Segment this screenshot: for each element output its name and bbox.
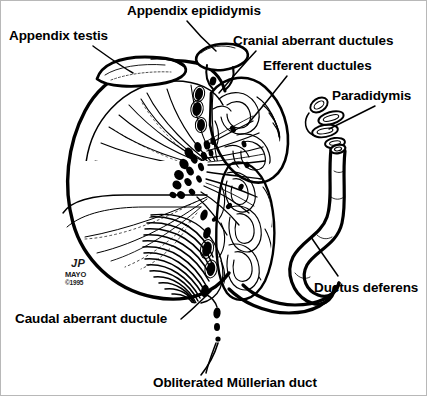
label-appendix-testis: Appendix testis <box>9 29 108 43</box>
efferent-ductules <box>197 116 265 235</box>
anatomical-figure: Appendix testis Appendix epididymis Cran… <box>0 0 427 396</box>
mullerian-duct-remnant <box>201 295 221 375</box>
label-paradidymis: Paradidymis <box>332 89 411 103</box>
artist-credit: JP MAYO ©1995 <box>65 257 86 285</box>
rete-testis <box>168 137 216 201</box>
copyright-year: ©1995 <box>65 279 86 286</box>
label-appendix-epididymis: Appendix epididymis <box>127 4 261 18</box>
artist-initials: JP <box>71 257 92 269</box>
leader-paradidymis <box>329 106 375 129</box>
appendix-testis-body <box>97 57 186 86</box>
label-efferent-ductules: Efferent ductules <box>263 59 372 73</box>
label-obliterated-mullerian-duct: Obliterated Müllerian duct <box>153 376 317 390</box>
institution-mark: MAYO <box>65 270 86 279</box>
seminiferous-lobules-upper <box>77 81 225 189</box>
leader-appendix-epididymis <box>187 21 216 51</box>
epididymis-head <box>210 78 288 183</box>
label-caudal-aberrant-ductule: Caudal aberrant ductule <box>15 312 167 326</box>
label-ductus-deferens: Ductus deferens <box>314 281 418 295</box>
leader-mullerian-duct <box>206 343 216 373</box>
label-cranial-aberrant-ductules: Cranial aberrant ductules <box>233 34 393 48</box>
